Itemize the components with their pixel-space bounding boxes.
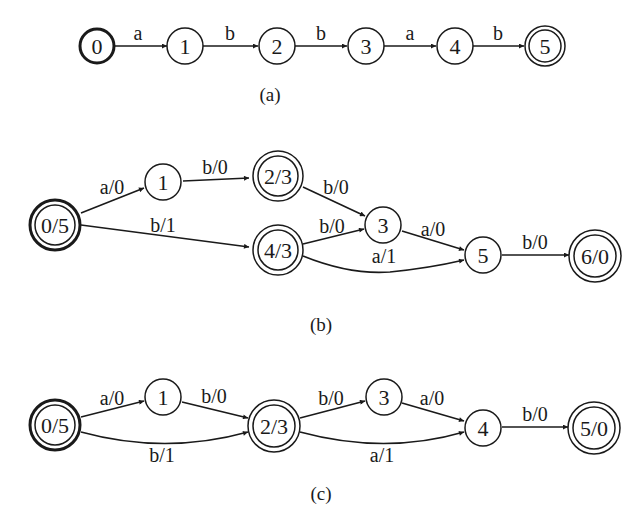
svg-text:1: 1 — [158, 385, 169, 410]
panel-c: a/0 b/1 b/0 b/0 a/1 a/0 b/0 — [30, 379, 620, 505]
svg-text:5: 5 — [478, 243, 489, 268]
edge-b-3-5: a/0 — [402, 218, 464, 250]
edge-a-4-5: b — [473, 22, 524, 46]
svg-text:1: 1 — [180, 34, 191, 59]
edge-b-4-3: b/0 — [303, 215, 364, 244]
edge-c-3-4: a/0 — [402, 387, 464, 421]
state-a-3: 3 — [348, 28, 384, 64]
edge-c-4-5: b/0 — [502, 403, 568, 427]
svg-text:5/0: 5/0 — [580, 416, 608, 441]
state-b-4-final: 4/3 — [253, 225, 303, 275]
svg-text:0/5: 0/5 — [41, 213, 69, 238]
caption-c: (c) — [310, 483, 331, 505]
panel-a: a b b a b 0 1 2 — [80, 22, 565, 106]
caption-b: (b) — [310, 314, 332, 336]
edge-b-4-5: a/1 — [303, 245, 464, 272]
state-c-3: 3 — [366, 379, 402, 415]
edge-b-5-6: b/0 — [502, 231, 569, 255]
state-a-0: 0 — [80, 29, 114, 63]
state-c-4: 4 — [465, 410, 501, 446]
edge-label: b/0 — [522, 403, 548, 425]
edge-label: b/0 — [323, 176, 349, 198]
state-a-5-final: 5 — [525, 26, 565, 66]
panel-b: a/0 b/1 b/0 b/0 b/0 a/1 a/0 b/0 — [30, 151, 621, 336]
svg-text:3: 3 — [379, 385, 390, 410]
state-b-0-start-final: 0/5 — [30, 200, 80, 250]
edge-c-1-2: b/0 — [182, 385, 248, 418]
svg-text:3: 3 — [361, 34, 372, 59]
svg-text:0: 0 — [92, 34, 103, 59]
edge-label: a — [134, 22, 143, 44]
state-c-1: 1 — [145, 379, 181, 415]
svg-text:6/0: 6/0 — [581, 244, 609, 269]
edge-label: b — [316, 22, 326, 44]
edge-label: a/1 — [372, 245, 396, 267]
svg-text:1: 1 — [158, 170, 169, 195]
edge-label: b/1 — [149, 444, 175, 466]
svg-text:2/3: 2/3 — [264, 164, 292, 189]
edge-label: b — [225, 22, 235, 44]
edge-c-2-3: b/0 — [300, 387, 365, 418]
edge-a-2-3: b — [295, 22, 347, 46]
edge-label: b — [493, 22, 503, 44]
edge-a-0-1: a — [114, 22, 167, 46]
edge-c-2-4: a/1 — [300, 432, 464, 466]
state-a-2: 2 — [259, 28, 295, 64]
edge-label: a/0 — [100, 176, 124, 198]
svg-text:2: 2 — [272, 34, 283, 59]
edge-label: b/0 — [522, 231, 548, 253]
state-b-1: 1 — [145, 164, 181, 200]
state-b-3: 3 — [365, 207, 401, 243]
edge-b-0-4: b/1 — [81, 214, 249, 247]
svg-text:0/5: 0/5 — [41, 413, 69, 438]
edge-label: b/1 — [150, 214, 176, 236]
state-c-0-start-final: 0/5 — [30, 400, 80, 450]
edge-b-1-2: b/0 — [183, 156, 249, 181]
edge-label: a/0 — [100, 387, 124, 409]
svg-text:4: 4 — [478, 416, 489, 441]
edge-b-0-1: a/0 — [81, 176, 144, 213]
edge-label: b/0 — [202, 156, 228, 178]
state-c-5-final: 5/0 — [568, 402, 620, 454]
edge-label: b/0 — [319, 215, 345, 237]
edge-label: a/1 — [370, 444, 394, 466]
state-a-4: 4 — [437, 28, 473, 64]
edge-label: a/0 — [420, 387, 444, 409]
edge-label: a — [406, 22, 415, 44]
state-b-2-final: 2/3 — [253, 151, 303, 201]
automata-figure: a b b a b 0 1 2 — [0, 0, 643, 531]
edge-c-0-1: a/0 — [81, 387, 144, 417]
svg-text:3: 3 — [378, 213, 389, 238]
state-c-2-final: 2/3 — [248, 400, 300, 452]
caption-a: (a) — [259, 84, 280, 106]
svg-text:2/3: 2/3 — [260, 414, 288, 439]
svg-text:5: 5 — [540, 34, 551, 59]
edge-a-3-4: a — [384, 22, 436, 46]
edge-label: a/0 — [421, 218, 445, 240]
edge-label: b/0 — [318, 387, 344, 409]
edge-label: b/0 — [201, 385, 227, 407]
svg-text:4/3: 4/3 — [264, 238, 292, 263]
edge-b-2-3: b/0 — [303, 176, 365, 216]
svg-text:4: 4 — [450, 34, 461, 59]
state-a-1: 1 — [167, 28, 203, 64]
edge-c-0-2: b/1 — [81, 432, 248, 466]
state-b-6-final: 6/0 — [569, 230, 621, 282]
state-b-5: 5 — [465, 237, 501, 273]
edge-a-1-2: b — [203, 22, 258, 46]
